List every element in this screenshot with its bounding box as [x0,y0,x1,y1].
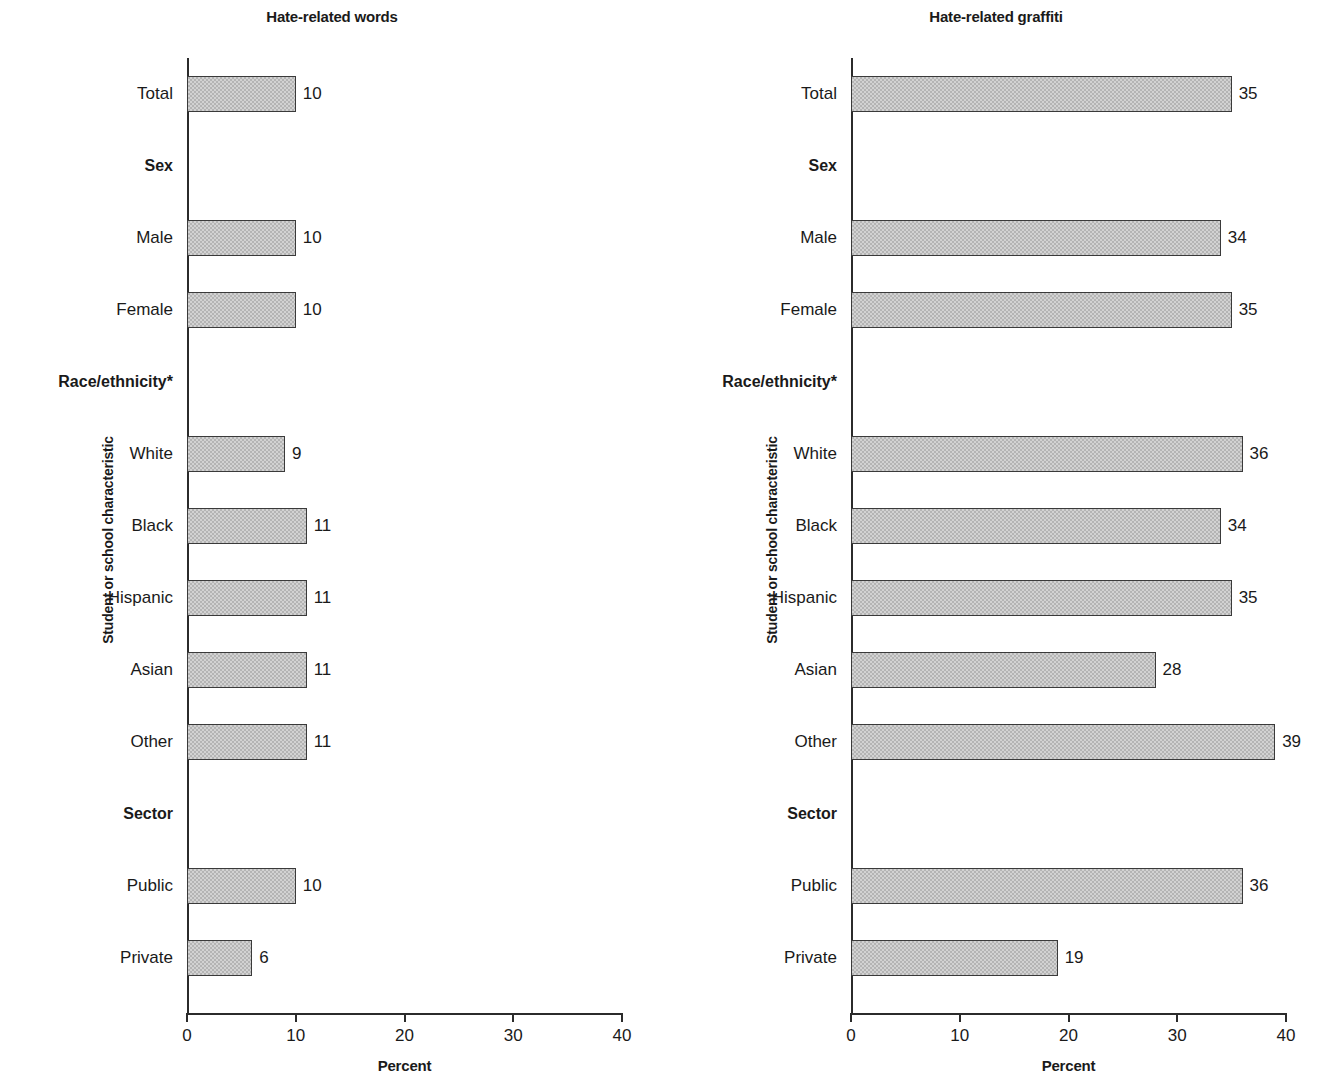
bar-value-label: 9 [292,444,301,464]
x-axis-tick-label: 40 [1277,1026,1296,1046]
bar-value-label: 19 [1065,948,1084,968]
chart-panel-hate-related-graffiti: Hate-related graffiti Student or school … [664,0,1328,1083]
x-axis-tick [512,1013,514,1022]
category-label: Female [780,300,837,320]
bar-value-label: 11 [314,732,332,752]
bar [851,724,1275,760]
category-group-label: Sex [145,157,173,175]
bar-value-label: 11 [314,588,332,608]
x-axis-tick [404,1013,406,1022]
bar-value-label: 10 [303,228,322,248]
x-axis-tick [850,1013,852,1022]
category-label: Female [116,300,173,320]
bar [187,580,307,616]
category-label: White [130,444,173,464]
bar [851,940,1058,976]
category-label: Asian [794,660,837,680]
bar [187,292,296,328]
bar-value-label: 34 [1228,228,1247,248]
x-axis-title: Percent [851,1057,1286,1074]
x-axis-tick-label: 30 [504,1026,523,1046]
category-group-label: Sex [809,157,837,175]
x-axis-tick-label: 0 [846,1026,855,1046]
x-axis-tick-label: 20 [395,1026,414,1046]
category-label: Male [136,228,173,248]
category-label: Private [784,948,837,968]
y-axis-title: Student or school characteristic [764,436,780,644]
category-label: Black [131,516,173,536]
x-axis-tick-label: 10 [950,1026,969,1046]
x-axis-tick-label: 30 [1168,1026,1187,1046]
category-group-label: Race/ethnicity* [58,373,173,391]
bar [187,868,296,904]
bar-value-label: 11 [314,660,332,680]
x-axis-tick-label: 40 [613,1026,632,1046]
category-group-label: Sector [787,805,837,823]
category-label: Other [794,732,837,752]
x-axis-tick [186,1013,188,1022]
x-axis-tick [1068,1013,1070,1022]
bar [851,220,1221,256]
chart-panel-hate-related-words: Hate-related words Student or school cha… [0,0,664,1083]
chart-title: Hate-related words [0,8,664,25]
bar [187,76,296,112]
bar-value-label: 11 [314,516,332,536]
bar-value-label: 34 [1228,516,1247,536]
bar-value-label: 10 [303,84,322,104]
bar [851,292,1232,328]
bar [187,436,285,472]
plot-area: 010203040Total35SexMale34Female35Race/et… [851,58,1286,1013]
bar-value-label: 35 [1239,588,1258,608]
category-label: Total [137,84,173,104]
category-label: Other [130,732,173,752]
y-axis-title: Student or school characteristic [100,436,116,644]
bar [851,76,1232,112]
x-axis-tick [1176,1013,1178,1022]
bar [187,508,307,544]
x-axis-tick [1285,1013,1287,1022]
bar [187,220,296,256]
bar-value-label: 36 [1250,876,1269,896]
bar-value-label: 35 [1239,84,1258,104]
category-label: White [794,444,837,464]
bar [187,724,307,760]
bar [851,652,1156,688]
category-group-label: Race/ethnicity* [722,373,837,391]
bar [851,436,1243,472]
x-axis-tick-label: 20 [1059,1026,1078,1046]
category-label: Hispanic [772,588,837,608]
bar-value-label: 36 [1250,444,1269,464]
bar [187,652,307,688]
bar-value-label: 28 [1163,660,1182,680]
x-axis-tick-label: 0 [182,1026,191,1046]
category-label: Public [127,876,173,896]
chart-title: Hate-related graffiti [664,8,1328,25]
bar [851,868,1243,904]
x-axis-title: Percent [187,1057,622,1074]
bar [187,940,252,976]
category-label: Black [795,516,837,536]
x-axis-tick [621,1013,623,1022]
category-group-label: Sector [123,805,173,823]
category-label: Private [120,948,173,968]
plot-area: 010203040Total10SexMale10Female10Race/et… [187,58,622,1013]
x-axis-tick-label: 10 [286,1026,305,1046]
category-label: Hispanic [108,588,173,608]
x-axis-tick [959,1013,961,1022]
bar-value-label: 10 [303,876,322,896]
category-label: Public [791,876,837,896]
bar-value-label: 39 [1282,732,1301,752]
bar [851,508,1221,544]
bar-value-label: 6 [259,948,268,968]
category-label: Male [800,228,837,248]
bar-value-label: 35 [1239,300,1258,320]
bar [851,580,1232,616]
bar-value-label: 10 [303,300,322,320]
x-axis-tick [295,1013,297,1022]
category-label: Total [801,84,837,104]
category-label: Asian [130,660,173,680]
